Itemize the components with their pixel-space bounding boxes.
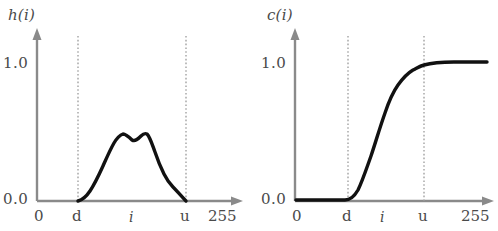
- xtick-d-h: d: [72, 209, 82, 224]
- xtick-255-h: 255: [208, 209, 237, 224]
- xtick-0-c: 0: [292, 209, 302, 224]
- xtick-u-h: u: [180, 209, 190, 224]
- xtick-i-c: i: [380, 210, 384, 224]
- xtick-i-h: i: [129, 210, 133, 224]
- chart-panel-histogram: h(i) 1.0 0.0 0 d i u 255: [0, 0, 249, 231]
- axis-title-c: c(i): [267, 8, 293, 23]
- cumulative-curve: [296, 62, 487, 200]
- ytick-bottom-h: 0.0: [3, 192, 28, 207]
- histogram-curve: [78, 134, 186, 201]
- figure-container: h(i) 1.0 0.0 0 d i u 255: [0, 0, 498, 231]
- axis-title-h: h(i): [8, 8, 35, 23]
- xtick-0-h: 0: [34, 209, 44, 224]
- ytick-top-h: 1.0: [3, 56, 28, 71]
- ytick-bottom-c: 0.0: [261, 192, 286, 207]
- xtick-u-c: u: [418, 209, 428, 224]
- y-axis: [291, 28, 300, 201]
- histogram-plot: [0, 0, 249, 231]
- x-axis: [37, 197, 243, 206]
- ytick-top-c: 1.0: [261, 56, 286, 71]
- chart-panel-cumulative: c(i) 1.0 0.0 0 d i u 255: [249, 0, 498, 231]
- xtick-255-c: 255: [461, 209, 490, 224]
- xtick-d-c: d: [342, 209, 352, 224]
- y-axis: [33, 28, 42, 201]
